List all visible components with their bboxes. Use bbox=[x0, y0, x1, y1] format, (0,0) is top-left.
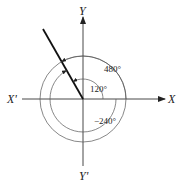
y-neg-axis-label: Y' bbox=[79, 169, 89, 183]
angle-label-480: 480° bbox=[104, 64, 122, 74]
y-axis-label: Y bbox=[79, 4, 87, 18]
angle-label-minus-240: −240° bbox=[94, 116, 117, 126]
x-neg-axis-label: X' bbox=[6, 92, 17, 106]
angle-label-120: 120° bbox=[90, 84, 108, 94]
coterminal-angle-diagram: Y Y' X X' 480° 120° −240° bbox=[0, 0, 187, 194]
terminal-side bbox=[43, 29, 83, 99]
x-axis-label: X bbox=[167, 92, 176, 106]
